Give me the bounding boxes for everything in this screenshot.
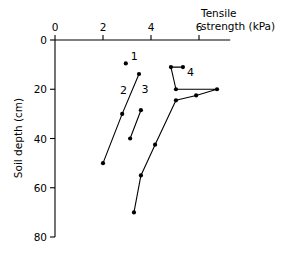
series-line-3 — [130, 110, 141, 138]
series-labels: 1234 — [120, 50, 194, 97]
x-tick-label: 4 — [148, 21, 155, 33]
data-point-4 — [153, 143, 157, 147]
tick-labels: 0246020406080 — [34, 21, 203, 243]
x-tick-label: 2 — [100, 21, 107, 33]
data-point-4 — [174, 98, 178, 102]
data-point-4 — [139, 173, 143, 177]
series-label-4: 4 — [187, 66, 194, 79]
data-point-4 — [181, 65, 185, 69]
data-point-3 — [139, 108, 143, 112]
data-point-4 — [174, 87, 178, 91]
data-point-2 — [120, 112, 124, 116]
data-point-4 — [194, 93, 198, 97]
data-point-4 — [132, 210, 136, 214]
chart-container: 0246020406080 1234 Tensilestrength (kPa)… — [0, 0, 307, 253]
tick-marks — [50, 35, 199, 237]
data-point-3 — [128, 136, 132, 140]
axes — [55, 40, 230, 237]
x-axis-title-line1: Tensile — [200, 7, 237, 19]
y-tick-label: 0 — [40, 34, 47, 46]
data-point-4 — [169, 65, 173, 69]
data-point-2 — [101, 161, 105, 165]
y-tick-label: 60 — [34, 182, 47, 194]
series-label-3: 3 — [142, 83, 149, 96]
tensile-strength-depth-chart: 0246020406080 1234 Tensilestrength (kPa)… — [0, 0, 307, 253]
data-point-4 — [215, 87, 219, 91]
y-axis-title: Soil depth (cm) — [12, 98, 24, 178]
x-axis-title-line2: strength (kPa) — [201, 20, 275, 32]
series-label-2: 2 — [120, 84, 127, 97]
y-tick-label: 20 — [34, 83, 47, 95]
data-series — [101, 61, 219, 214]
series-label-1: 1 — [131, 50, 138, 63]
y-tick-label: 80 — [34, 231, 47, 243]
y-tick-label: 40 — [34, 133, 47, 145]
data-point-2 — [137, 72, 141, 76]
x-tick-label: 0 — [52, 21, 59, 33]
data-point-1 — [124, 61, 128, 65]
